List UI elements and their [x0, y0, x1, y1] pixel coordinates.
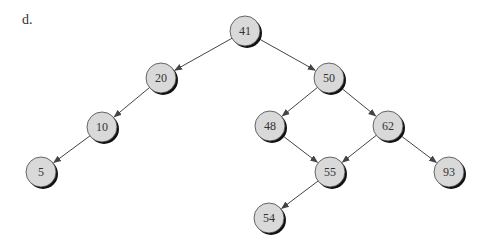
- node-value: 20: [155, 71, 167, 85]
- tree-node-20: 20: [146, 63, 178, 95]
- edge-50-to-48: [282, 87, 317, 115]
- edge-10-to-5: [54, 136, 90, 163]
- node-value: 48: [264, 119, 276, 133]
- edge-55-to-54: [282, 181, 318, 208]
- node-value: 55: [324, 165, 336, 179]
- tree-graph: 4120501048625559354: [0, 0, 491, 252]
- node-value: 50: [323, 71, 335, 85]
- node-value: 5: [38, 165, 44, 179]
- edge-41-to-50: [258, 38, 315, 70]
- edge-41-to-20: [175, 38, 232, 70]
- node-value: 62: [382, 119, 394, 133]
- tree-node-55: 55: [315, 157, 347, 189]
- tree-node-48: 48: [255, 111, 287, 143]
- edge-62-to-55: [343, 135, 377, 162]
- tree-diagram: d. 4120501048625559354: [0, 0, 491, 252]
- tree-node-10: 10: [87, 112, 119, 144]
- edge-48-to-55: [282, 135, 317, 162]
- node-value: 93: [443, 165, 455, 179]
- tree-node-93: 93: [434, 157, 466, 189]
- edge-20-to-10: [114, 88, 149, 117]
- nodes-layer: 4120501048625559354: [26, 16, 466, 235]
- edge-62-to-93: [400, 135, 436, 162]
- node-value: 41: [239, 24, 251, 38]
- tree-node-5: 5: [26, 157, 58, 189]
- node-value: 54: [263, 211, 275, 225]
- tree-node-62: 62: [373, 111, 405, 143]
- node-value: 10: [96, 120, 108, 134]
- tree-node-41: 41: [230, 16, 262, 48]
- tree-node-54: 54: [254, 203, 286, 235]
- edge-50-to-62: [341, 87, 376, 115]
- tree-node-50: 50: [314, 63, 346, 95]
